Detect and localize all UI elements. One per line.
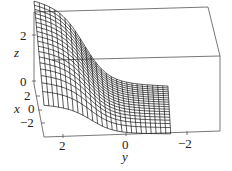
plot-box bbox=[34, 7, 220, 137]
x-tick-neg2: −2 bbox=[20, 115, 34, 130]
surface-mesh bbox=[34, 1, 171, 134]
y-tick-2: 2 bbox=[59, 138, 66, 153]
x-axis-label: x bbox=[13, 101, 20, 116]
y-tick-neg2: −2 bbox=[178, 136, 192, 151]
z-tick-0: 0 bbox=[20, 74, 27, 89]
z-axis-label: z bbox=[13, 45, 19, 60]
x-tick-0: 0 bbox=[28, 101, 35, 116]
z-tick-2: 2 bbox=[20, 28, 27, 43]
ticks bbox=[32, 35, 187, 138]
surface-plot: 2 z 0 2 x 0 −2 2 0 y −2 bbox=[0, 0, 232, 171]
y-axis-label: y bbox=[120, 149, 128, 164]
